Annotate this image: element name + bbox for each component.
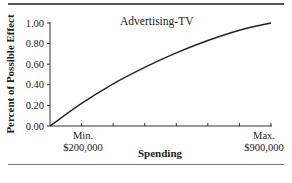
bottom-rule: [8, 164, 284, 165]
y-axis-label: Percent of Possible Effect: [4, 14, 16, 134]
chart-title: Advertising-TV: [120, 15, 194, 28]
y-tick-label: 0.60: [26, 59, 44, 70]
y-tick-label: 0.40: [26, 79, 44, 90]
y-tick-label: 0.00: [26, 121, 44, 132]
x-axis-label: Spending: [138, 147, 183, 159]
chart-svg: 0.000.200.400.600.801.00 Advertising-TV …: [0, 0, 292, 183]
min-value: $200,000: [63, 142, 102, 153]
y-tick-label: 0.80: [26, 38, 44, 49]
min-label: Min.: [73, 130, 93, 141]
effect-curve: [50, 23, 271, 126]
max-value: $900,000: [244, 142, 283, 153]
max-label: Max.: [253, 130, 275, 141]
y-tick-label: 1.00: [26, 18, 44, 29]
y-tick-label: 0.20: [26, 100, 44, 111]
y-ticks: 0.000.200.400.600.801.00: [26, 18, 50, 132]
